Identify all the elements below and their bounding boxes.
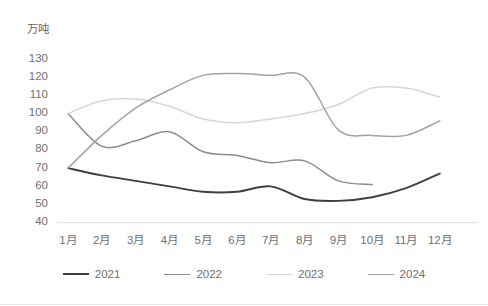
y-tick-60: 60 — [18, 179, 48, 191]
chart-legend: 2021202220232024 — [0, 268, 488, 280]
y-tick-70: 70 — [18, 161, 48, 173]
legend-label: 2021 — [95, 268, 121, 280]
y-tick-80: 80 — [18, 142, 48, 154]
legend-label: 2024 — [400, 268, 426, 280]
legend-item-2024[interactable]: 2024 — [368, 268, 426, 280]
bottom-divider — [0, 304, 488, 305]
series-layer — [68, 73, 440, 201]
line-chart: 万吨 130120110100908070605040 1月2月3月4月5月6月… — [0, 0, 488, 306]
y-tick-50: 50 — [18, 197, 48, 209]
legend-item-2022[interactable]: 2022 — [164, 268, 222, 280]
y-tick-90: 90 — [18, 124, 48, 136]
legend-label: 2022 — [196, 268, 222, 280]
legend-line-icon — [63, 273, 89, 275]
legend-line-icon — [164, 274, 190, 275]
series-line-2021 — [68, 168, 440, 201]
chart-plot-area — [0, 0, 488, 306]
y-tick-130: 130 — [18, 52, 48, 64]
legend-label: 2023 — [298, 268, 324, 280]
legend-item-2023[interactable]: 2023 — [266, 268, 324, 280]
x-tick-12: 12月 — [420, 231, 460, 247]
y-tick-40: 40 — [18, 215, 48, 227]
legend-item-2021[interactable]: 2021 — [63, 268, 121, 280]
y-tick-110: 110 — [18, 88, 48, 100]
legend-line-icon — [368, 274, 394, 275]
legend-line-icon — [266, 274, 292, 275]
y-tick-120: 120 — [18, 70, 48, 82]
y-tick-100: 100 — [18, 106, 48, 118]
